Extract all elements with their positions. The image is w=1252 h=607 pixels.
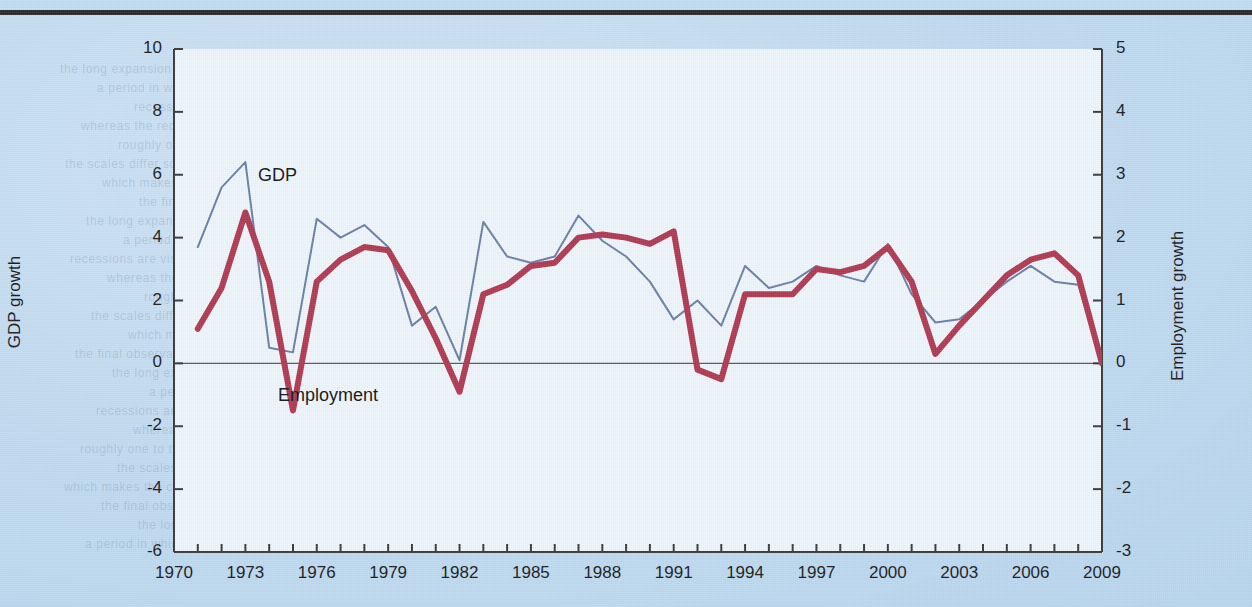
bottom-tick-label: 1985 <box>501 563 561 583</box>
chart-plot-area <box>0 0 1252 607</box>
bottom-tick-label: 2003 <box>929 563 989 583</box>
figure-container: the long expansion of the 1990s and the … <box>0 0 1252 607</box>
left-tick-label: 10 <box>120 38 162 58</box>
bottom-tick-label: 1982 <box>430 563 490 583</box>
right-tick-label: 3 <box>1116 164 1158 184</box>
bottom-tick-label: 1976 <box>287 563 347 583</box>
right-tick-label: 5 <box>1116 38 1158 58</box>
left-tick-label: 8 <box>120 101 162 121</box>
right-tick-label: -3 <box>1116 541 1158 561</box>
bottom-tick-label: 2006 <box>1001 563 1061 583</box>
bottom-tick-label: 1979 <box>358 563 418 583</box>
right-tick-label: 1 <box>1116 290 1158 310</box>
right-tick-label: 4 <box>1116 101 1158 121</box>
bottom-tick-label: 1994 <box>715 563 775 583</box>
right-tick-label: -1 <box>1116 415 1158 435</box>
left-tick-label: -2 <box>120 415 162 435</box>
left-tick-label: 2 <box>120 290 162 310</box>
left-tick-label: -4 <box>120 478 162 498</box>
bottom-tick-label: 1991 <box>644 563 704 583</box>
bottom-tick-label: 1973 <box>215 563 275 583</box>
series-label-employment: Employment <box>278 385 378 406</box>
bottom-tick-label: 1997 <box>786 563 846 583</box>
bottom-tick-label: 1988 <box>572 563 632 583</box>
right-tick-label: -2 <box>1116 478 1158 498</box>
left-tick-label: 0 <box>120 352 162 372</box>
left-axis-title: GDP growth <box>5 256 25 348</box>
right-tick-label: 0 <box>1116 352 1158 372</box>
bottom-tick-label: 1970 <box>144 563 204 583</box>
left-tick-label: 4 <box>120 227 162 247</box>
bottom-tick-label: 2009 <box>1072 563 1132 583</box>
bottom-tick-label: 2000 <box>858 563 918 583</box>
left-tick-label: -6 <box>120 541 162 561</box>
right-tick-label: 2 <box>1116 227 1158 247</box>
right-axis-title: Employment growth <box>1168 231 1188 381</box>
series-label-gdp: GDP <box>258 165 297 186</box>
left-tick-label: 6 <box>120 164 162 184</box>
